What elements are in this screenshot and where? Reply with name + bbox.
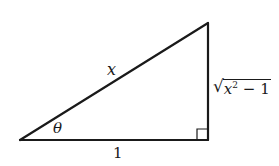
right-angle-marker — [197, 129, 208, 140]
adjacent-side-label: 1 — [113, 146, 123, 161]
hypotenuse-side — [20, 23, 208, 140]
angle-theta-label: θ — [53, 121, 62, 136]
radicand: x2 − 1 — [223, 79, 271, 97]
radicand-rest: − 1 — [238, 80, 270, 98]
hypotenuse-label: x — [107, 62, 116, 78]
opposite-side-label: √ x2 − 1 — [213, 79, 271, 97]
